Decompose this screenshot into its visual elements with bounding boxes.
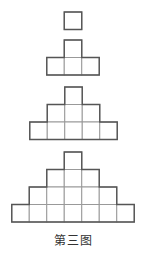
grid-square [29,187,47,205]
grid-square [82,187,100,205]
grid-square [64,187,82,205]
figure-4 [12,152,135,222]
grid-square [82,205,100,223]
grid-square [64,12,82,30]
grid-square [47,187,65,205]
staircase-diagram [0,0,147,260]
figure-1 [64,12,82,30]
grid-square [47,122,65,140]
grid-square [117,205,135,223]
grid-square [82,122,100,140]
grid-square [65,122,83,140]
grid-square [64,40,82,58]
grid-square [82,58,100,76]
grid-square [65,87,83,105]
grid-square [99,187,117,205]
grid-square [30,122,48,140]
grid-square [64,170,82,188]
figure-3 [30,87,118,140]
grid-square [65,105,83,123]
figure-caption: 第三图 [0,231,147,248]
grid-square [64,152,82,170]
grid-square [47,58,65,76]
grid-square [12,205,30,223]
grid-square [64,58,82,76]
grid-square [82,105,100,123]
grid-square [82,170,100,188]
grid-square [47,170,65,188]
grid-square [100,122,118,140]
figure-2 [47,40,100,75]
grid-square [47,105,65,123]
grid-square [47,205,65,223]
grid-square [64,205,82,223]
grid-square [99,205,117,223]
grid-square [29,205,47,223]
